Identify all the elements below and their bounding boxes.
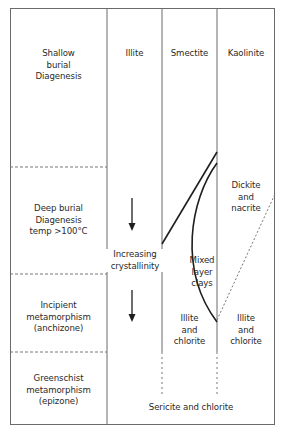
annotation-text: Increasing (102, 249, 168, 261)
annotation-text: crystallinity (102, 261, 168, 273)
annotation-text: Mixed (183, 255, 221, 267)
zone-text: (anchizone) (10, 323, 107, 335)
zone-text: Diagenesis (10, 71, 107, 83)
increasing-crystallinity-label: Increasing crystallinity (102, 249, 168, 272)
zone-text: metamorphism (10, 385, 107, 397)
sericite-chlorite-label: Sericite and chlorite (107, 402, 275, 414)
annotation-text: chlorite (162, 336, 217, 348)
zone-text: (epizone) (10, 396, 107, 408)
annotation-text: Illite (162, 313, 217, 325)
illite-chlorite-kaolinite-label: Illite and chlorite (217, 313, 275, 348)
annotation-text: layer (183, 267, 221, 279)
annotation-text: Dickite (217, 180, 275, 192)
annotation-text: chlorite (217, 336, 275, 348)
zone-text: burial (10, 60, 107, 72)
zone-text: temp >100°C (10, 226, 107, 238)
dickite-nacrite-label: Dickite and nacrite (217, 180, 275, 215)
annotation-text: clays (183, 278, 221, 290)
zone-text: Greenschist (10, 373, 107, 385)
illite-chlorite-smectite-label: Illite and chlorite (162, 313, 217, 348)
zone-text: Shallow (10, 48, 107, 60)
smectite-transition-line (162, 152, 217, 244)
zone-text: Incipient (10, 300, 107, 312)
mixed-layer-clays-label: Mixed layer clays (183, 255, 221, 290)
column-header-smectite: Smectite (162, 48, 217, 60)
zone-text: Deep burial (10, 203, 107, 215)
column-header-illite: Illite (107, 48, 162, 60)
annotation-text: nacrite (217, 203, 275, 215)
arrow-down-icon (129, 198, 136, 231)
zone-text: Diagenesis (10, 215, 107, 227)
zone-label-incipient: Incipient metamorphism (anchizone) (10, 300, 107, 335)
arrow-down-icon (129, 290, 136, 322)
annotation-text: Illite (217, 313, 275, 325)
zone-label-shallow: Shallow burial Diagenesis (10, 48, 107, 83)
zone-label-deep: Deep burial Diagenesis temp >100°C (10, 203, 107, 238)
column-header-kaolinite: Kaolinite (217, 48, 275, 60)
zone-label-greenschist: Greenschist metamorphism (epizone) (10, 373, 107, 408)
annotation-text: and (162, 325, 217, 337)
zone-text: metamorphism (10, 312, 107, 324)
annotation-text: and (217, 192, 275, 204)
annotation-text: and (217, 325, 275, 337)
